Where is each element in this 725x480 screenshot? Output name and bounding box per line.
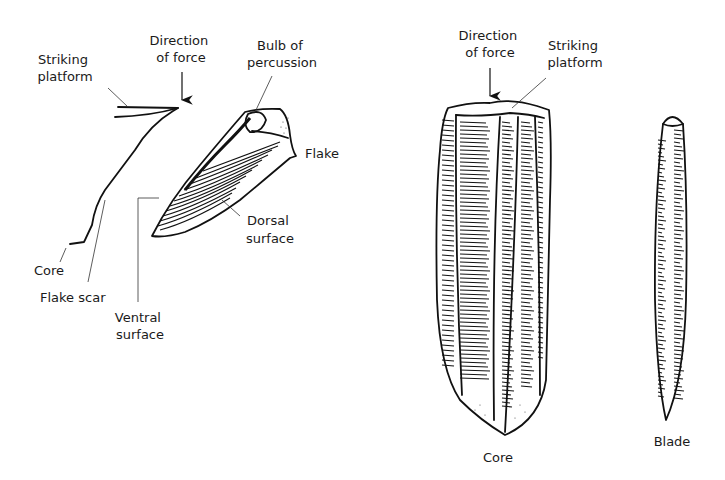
hatch-line	[460, 334, 487, 335]
hatch-line	[460, 294, 487, 295]
hatch-line	[502, 154, 511, 155]
hatch-line	[502, 278, 513, 279]
hatch-line	[674, 242, 680, 243]
label-flake-scar: Flake scar	[40, 290, 106, 305]
hatch-line	[538, 157, 543, 158]
hatch-line	[460, 310, 490, 311]
label-dorsal-surface: Dorsal surface	[246, 213, 294, 246]
hatch-line	[658, 184, 663, 185]
hatch-line	[460, 258, 489, 259]
hatch-line	[521, 350, 534, 351]
hatch-line	[658, 204, 663, 205]
hatch-line	[521, 178, 533, 179]
hatch-line	[442, 315, 454, 316]
hatch-line	[674, 330, 684, 331]
hatch-line	[460, 286, 488, 287]
hatch-line	[538, 122, 543, 123]
hatch-line	[521, 158, 533, 159]
hatch-line	[538, 162, 543, 163]
hatch-line	[521, 246, 532, 247]
hatch-line	[658, 140, 666, 141]
hatch-line	[658, 304, 663, 305]
hatch-line	[502, 374, 511, 375]
hatch-line	[460, 150, 490, 151]
hatch-line	[674, 334, 681, 335]
hatch-line	[442, 275, 454, 276]
hatch-line	[538, 347, 543, 348]
hatch-line	[538, 167, 543, 168]
hatch-line	[538, 182, 543, 183]
hatch-line	[658, 332, 662, 333]
hatch-line	[460, 250, 490, 251]
label-ventral-surface: Ventral surface	[115, 310, 165, 342]
hatch-line	[674, 310, 684, 311]
hatch-line	[538, 142, 543, 143]
hatch-line	[521, 238, 533, 239]
hatch-line	[658, 256, 664, 257]
hatch-line	[658, 336, 664, 337]
hatch-line	[674, 322, 680, 323]
hatch-line	[460, 222, 486, 223]
hatch-line	[502, 394, 511, 395]
hatch-line	[674, 262, 680, 263]
hatch-line	[442, 365, 454, 366]
hatch-line	[521, 334, 531, 335]
hatch-line	[674, 178, 683, 179]
hatch-line	[442, 340, 454, 341]
hatch-line	[460, 314, 487, 315]
hatch-line	[658, 248, 665, 249]
hatch-line	[502, 386, 512, 387]
hatch-line	[460, 266, 488, 267]
hatch-line	[502, 294, 511, 295]
hatch-line	[460, 226, 488, 227]
hatch-line	[658, 196, 664, 197]
hatch-line	[674, 226, 682, 227]
leader-flake-scar	[88, 200, 105, 282]
hatch-line	[521, 382, 530, 383]
hatch-line	[674, 218, 683, 219]
hatch-line	[502, 314, 511, 315]
hatch-line	[538, 192, 543, 193]
hatch-line	[460, 146, 488, 147]
hatch-line	[538, 177, 543, 178]
hatch-line	[502, 190, 514, 191]
hatch-line	[460, 206, 488, 207]
hatch-line	[442, 330, 454, 331]
hatch-line	[538, 172, 543, 173]
hatch-line	[442, 270, 454, 271]
hatch-line	[674, 238, 683, 239]
hatch-line	[442, 200, 454, 201]
hatch-line	[502, 246, 512, 247]
hatch-line	[521, 150, 534, 151]
hatch-line	[502, 202, 510, 203]
hatch-line	[460, 302, 486, 303]
hatch-line	[674, 378, 683, 379]
hatch-line	[442, 225, 454, 226]
hatch-line	[674, 138, 683, 139]
hatch-line	[460, 174, 487, 175]
hatch-line	[521, 226, 532, 227]
hatch-line	[538, 212, 543, 213]
hatch-line	[442, 260, 454, 261]
flake-removal-diagram: Striking platform Direction of force Bul…	[34, 33, 339, 342]
hatch-line	[674, 246, 682, 247]
hatch-line	[658, 200, 666, 201]
hatch-line	[521, 318, 533, 319]
hatch-line	[521, 310, 534, 311]
hatch-line	[502, 222, 510, 223]
hatch-line	[442, 150, 454, 151]
hatch-line	[658, 328, 665, 329]
hatch-line	[521, 126, 532, 127]
hatch-line	[521, 386, 532, 387]
hatch-line	[674, 342, 680, 343]
hatch-line	[521, 154, 531, 155]
hatch-line	[674, 382, 680, 383]
hatch-line	[442, 345, 454, 346]
hatch-line	[521, 338, 533, 339]
hatch-line	[502, 230, 514, 231]
hatch-line	[502, 186, 512, 187]
hatch-line	[502, 146, 512, 147]
hatch-line	[442, 245, 454, 246]
hatch-line	[521, 162, 530, 163]
hatch-line	[521, 278, 533, 279]
